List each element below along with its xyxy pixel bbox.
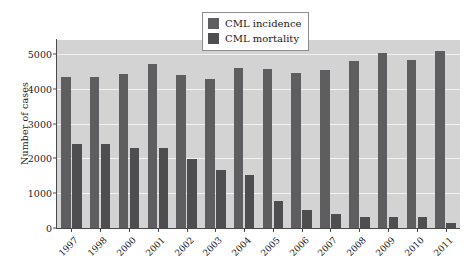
bar-incidence-1998: [90, 77, 100, 228]
y-axis-tick-labels: 010002000300040005000: [20, 40, 52, 228]
y-axis-tick-label: 0: [20, 223, 52, 234]
bar-incidence-2009: [378, 53, 388, 228]
gridline: [57, 158, 460, 159]
x-axis-tick-mark: [215, 229, 216, 232]
cml-incidence-mortality-bar-chart: Number of cases 010002000300040005000 19…: [0, 0, 470, 266]
legend-item[interactable]: CML mortality: [208, 31, 301, 46]
bar-incidence-2005: [263, 69, 273, 228]
x-axis-tick-mark: [129, 229, 130, 232]
bar-mortality-2007: [331, 214, 341, 228]
chart-legend: CML incidence CML mortality: [202, 12, 309, 51]
x-axis-tick-labels: 1997199820002001200220032004200520062007…: [57, 229, 460, 266]
y-axis-tick-label: 3000: [20, 118, 52, 129]
x-axis-tick-mark: [302, 229, 303, 232]
y-axis-tick-mark: [53, 158, 57, 159]
bar-incidence-2011: [435, 51, 445, 228]
bar-incidence-2010: [407, 60, 417, 228]
bar-incidence-2006: [291, 73, 301, 228]
y-axis-tick-label: 1000: [20, 188, 52, 199]
x-axis-tick-label: 2006: [287, 235, 311, 259]
legend-item-label: CML incidence: [225, 18, 301, 29]
x-axis-tick-label: 1997: [56, 235, 80, 259]
bar-mortality-2003: [216, 170, 226, 228]
y-axis-tick-label: 4000: [20, 83, 52, 94]
x-axis-tick-mark: [158, 229, 159, 232]
x-axis-tick-label: 2008: [344, 235, 368, 259]
bar-mortality-2000: [130, 148, 140, 228]
legend-swatch-icon: [208, 33, 219, 44]
x-axis-tick-mark: [330, 229, 331, 232]
x-axis-tick-mark: [417, 229, 418, 232]
gridline: [57, 89, 460, 90]
legend-item[interactable]: CML incidence: [208, 16, 301, 31]
x-axis-tick-mark: [100, 229, 101, 232]
bar-incidence-1997: [61, 77, 71, 228]
x-axis-tick-label: 2007: [315, 235, 339, 259]
bar-mortality-2010: [418, 217, 428, 228]
x-axis-tick-label: 2002: [172, 235, 196, 259]
x-axis-tick-mark: [446, 229, 447, 232]
legend-swatch-icon: [208, 18, 219, 29]
legend-item-label: CML mortality: [225, 33, 299, 44]
x-axis-tick-mark: [187, 229, 188, 232]
bar-incidence-2001: [148, 64, 158, 228]
y-axis-tick-label: 5000: [20, 48, 52, 59]
x-axis-tick-mark: [388, 229, 389, 232]
y-axis-tick-label: 2000: [20, 153, 52, 164]
bar-incidence-2002: [176, 75, 186, 228]
gridline: [57, 193, 460, 194]
x-axis-tick-label: 2011: [431, 235, 455, 259]
bar-mortality-2005: [274, 201, 284, 228]
x-axis-tick-label: 1998: [85, 235, 109, 259]
x-axis-tick-mark: [359, 229, 360, 232]
x-axis-tick-mark: [273, 229, 274, 232]
bar-incidence-2003: [205, 79, 215, 228]
y-axis-tick-mark: [53, 193, 57, 194]
gridline: [57, 54, 460, 55]
x-axis-tick-label: 2000: [114, 235, 138, 259]
y-axis-tick-mark: [53, 53, 57, 54]
x-axis-tick-label: 2003: [200, 235, 224, 259]
x-axis-tick-label: 2005: [258, 235, 282, 259]
bar-mortality-2009: [389, 217, 399, 228]
bar-mortality-2006: [302, 210, 312, 228]
plot-area: [57, 40, 460, 228]
bar-incidence-2004: [234, 68, 244, 228]
bar-mortality-2002: [187, 159, 197, 228]
x-axis-tick-label: 2009: [373, 235, 397, 259]
bar-incidence-2007: [320, 70, 330, 228]
gridline: [57, 124, 460, 125]
bar-mortality-1998: [101, 144, 111, 228]
x-axis-tick-mark: [244, 229, 245, 232]
y-axis-tick-mark: [53, 88, 57, 89]
bar-mortality-2001: [159, 148, 169, 228]
bar-mortality-2008: [360, 217, 370, 228]
bar-mortality-2011: [446, 223, 456, 228]
bar-incidence-2008: [349, 61, 359, 228]
bar-mortality-2004: [245, 175, 255, 228]
x-axis-tick-label: 2001: [143, 235, 167, 259]
x-axis-tick-label: 2010: [402, 235, 426, 259]
x-axis-tick-mark: [71, 229, 72, 232]
bar-mortality-1997: [72, 144, 82, 228]
x-axis-tick-label: 2004: [229, 235, 253, 259]
bar-incidence-2000: [119, 74, 129, 228]
y-axis-tick-mark: [53, 228, 57, 229]
y-axis-tick-mark: [53, 123, 57, 124]
